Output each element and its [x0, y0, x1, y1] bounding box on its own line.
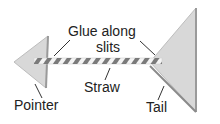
pointer-leader — [35, 84, 42, 98]
pointer-label: Pointer — [14, 98, 58, 112]
straw-label: Straw — [84, 80, 120, 94]
glue-leader-right — [140, 41, 155, 55]
tail-leader — [158, 86, 164, 100]
glue-label-line1: Glue along — [68, 24, 136, 38]
glue-leader-left — [54, 40, 70, 56]
straw — [34, 58, 162, 64]
straw-arrow-diagram: Glue along slits Straw Pointer Tail — [0, 0, 220, 124]
tail-label: Tail — [146, 100, 167, 114]
glue-label-line2: slits — [96, 40, 120, 54]
